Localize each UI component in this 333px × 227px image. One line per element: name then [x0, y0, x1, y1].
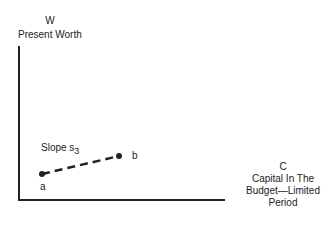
x-axis-label-line-3: Period: [240, 197, 326, 209]
x-axis-symbol: C: [240, 161, 326, 173]
slope-subscript: 3: [74, 146, 79, 156]
x-axis-label-line-2: Budget—Limited: [240, 185, 326, 197]
y-axis-label: Present Worth: [18, 29, 82, 41]
y-axis-symbol: W: [44, 15, 56, 27]
slope-label: Slope s3: [41, 142, 79, 157]
slope-segment: [42, 156, 119, 174]
point-a-label: a: [40, 181, 46, 193]
x-axis-label-block: C Capital In The Budget—Limited Period: [240, 161, 326, 209]
slope-text: Slope s: [41, 142, 74, 153]
point-a: [39, 171, 45, 177]
point-b: [116, 153, 122, 159]
x-axis-label-line-1: Capital In The: [240, 173, 326, 185]
point-b-label: b: [132, 150, 138, 162]
